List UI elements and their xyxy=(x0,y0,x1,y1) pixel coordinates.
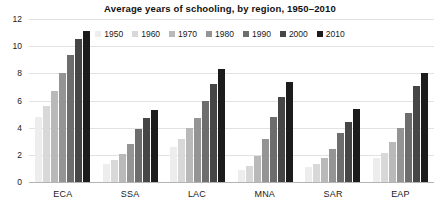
bar-SAR-2000[interactable] xyxy=(345,122,352,182)
y-tick-label: 2 xyxy=(17,150,22,160)
bar-MNA-2000[interactable] xyxy=(278,97,285,182)
y-axis: 024681012 xyxy=(0,19,26,182)
bar-SSA-2010[interactable] xyxy=(151,110,158,182)
bar-ECA-1990[interactable] xyxy=(67,55,74,182)
bar-ECA-1950[interactable] xyxy=(35,117,42,182)
bar-LAC-1980[interactable] xyxy=(194,118,201,182)
bar-MNA-1970[interactable] xyxy=(254,156,261,182)
x-tick-label-ECA: ECA xyxy=(53,184,72,199)
bar-ECA-1960[interactable] xyxy=(43,106,50,182)
bar-groups xyxy=(29,19,434,182)
bar-SSA-1990[interactable] xyxy=(135,129,142,182)
bar-group-LAC xyxy=(170,19,225,182)
bar-MNA-1980[interactable] xyxy=(262,139,269,182)
bar-ECA-2010[interactable] xyxy=(83,31,90,182)
bar-LAC-1960[interactable] xyxy=(178,139,185,182)
x-axis: ECASSALACMNASAREAP xyxy=(29,184,434,204)
bar-group-MNA xyxy=(238,19,293,182)
bar-SAR-1980[interactable] xyxy=(329,149,336,182)
x-tick-label-SAR: SAR xyxy=(324,184,343,199)
bar-EAP-1970[interactable] xyxy=(389,142,396,182)
bar-group-SAR xyxy=(305,19,360,182)
bar-SSA-1970[interactable] xyxy=(119,154,126,182)
bar-SSA-1980[interactable] xyxy=(127,144,134,182)
x-tick-label-EAP: EAP xyxy=(391,184,410,199)
gridline-0 xyxy=(29,182,434,183)
bar-group-ECA xyxy=(35,19,90,182)
bar-SSA-1960[interactable] xyxy=(111,160,118,182)
bar-LAC-2000[interactable] xyxy=(210,84,217,182)
bar-EAP-1960[interactable] xyxy=(381,153,388,182)
y-tick-label: 0 xyxy=(17,177,22,187)
bar-MNA-1950[interactable] xyxy=(238,170,245,182)
y-tick-label: 10 xyxy=(13,41,22,51)
bar-ECA-2000[interactable] xyxy=(75,39,82,182)
bar-group-EAP xyxy=(373,19,428,182)
y-tick-label: 12 xyxy=(13,14,22,24)
y-tick-label: 6 xyxy=(17,96,22,106)
bar-SAR-1990[interactable] xyxy=(337,133,344,182)
bar-EAP-2000[interactable] xyxy=(413,86,420,182)
bar-MNA-1990[interactable] xyxy=(270,117,277,182)
bar-MNA-1960[interactable] xyxy=(246,166,253,182)
bar-EAP-1990[interactable] xyxy=(405,113,412,182)
bar-EAP-1980[interactable] xyxy=(397,128,404,182)
bar-ECA-1970[interactable] xyxy=(51,91,58,182)
bar-EAP-2010[interactable] xyxy=(421,73,428,182)
bar-EAP-1950[interactable] xyxy=(373,158,380,182)
bar-SAR-1950[interactable] xyxy=(305,167,312,182)
bar-LAC-1950[interactable] xyxy=(170,147,177,182)
bar-SAR-1970[interactable] xyxy=(321,158,328,182)
y-tick-label: 8 xyxy=(17,68,22,78)
bar-LAC-1990[interactable] xyxy=(202,101,209,183)
bar-group-SSA xyxy=(103,19,158,182)
bar-chart: Average years of schooling, by region, 1… xyxy=(0,0,440,213)
bar-LAC-1970[interactable] xyxy=(186,128,193,182)
x-tick-label-MNA: MNA xyxy=(254,184,275,199)
bar-SSA-2000[interactable] xyxy=(143,118,150,182)
x-tick-label-LAC: LAC xyxy=(188,184,206,199)
chart-title: Average years of schooling, by region, 1… xyxy=(0,3,440,14)
bar-MNA-2010[interactable] xyxy=(286,82,293,182)
bar-LAC-2010[interactable] xyxy=(218,69,225,182)
bar-SSA-1950[interactable] xyxy=(103,164,110,182)
x-tick-label-SSA: SSA xyxy=(121,184,140,199)
bar-SAR-2010[interactable] xyxy=(353,109,360,182)
bar-ECA-1980[interactable] xyxy=(59,73,66,182)
plot-area xyxy=(29,19,434,182)
y-tick-label: 4 xyxy=(17,123,22,133)
bar-SAR-1960[interactable] xyxy=(313,164,320,182)
